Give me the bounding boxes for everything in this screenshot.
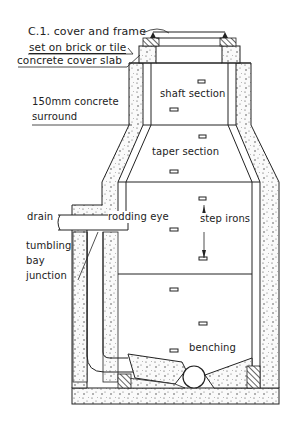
channel-pipe — [183, 366, 205, 388]
surround-right — [236, 63, 279, 388]
tumbling-column-left — [73, 232, 87, 382]
label-tumbling-1: tumbling — [26, 240, 71, 252]
cover-frame — [150, 32, 228, 38]
label-steps: step irons — [200, 213, 250, 225]
tumbling-column-right — [103, 232, 118, 382]
base-slab — [72, 388, 279, 404]
label-benching: benching — [189, 342, 236, 354]
label-taper: taper section — [152, 146, 219, 158]
cover-slab-left — [139, 46, 156, 63]
label-surround-2: surround — [32, 111, 77, 123]
label-surround-1: 150mm concrete — [32, 96, 119, 108]
label-tumbling-2: bay — [26, 255, 45, 267]
label-slab: concrete cover slab — [17, 54, 122, 66]
label-bedding: set on brick or tile — [29, 41, 126, 54]
label-tumbling-3: junction — [26, 270, 67, 282]
label-rodding: rodding eye — [108, 211, 169, 223]
label-shaft: shaft section — [160, 88, 225, 100]
label-drain: drain — [27, 211, 53, 223]
cover-slab-right — [222, 46, 240, 63]
label-cover: C.1. cover and frame — [28, 26, 146, 38]
